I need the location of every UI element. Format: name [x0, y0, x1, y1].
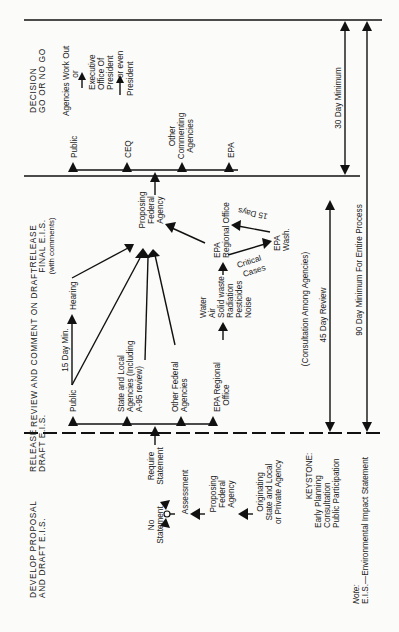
svg-text:AND DRAFT E.I.S.: AND DRAFT E.I.S.	[37, 518, 47, 598]
svg-text:Commenting: Commenting	[177, 112, 186, 159]
svg-text:EPA Regional: EPA Regional	[213, 362, 222, 412]
svg-text:Other: Other	[168, 125, 177, 146]
arrowhead-icon	[68, 416, 78, 426]
forty-five-day-label: 45 Day Review	[319, 287, 328, 342]
require-statement-label: Require Statement	[147, 447, 165, 485]
arrowhead-icon	[325, 422, 335, 432]
epa-regional-office-label: EPA Regional Office	[213, 362, 231, 412]
arrowhead-icon	[218, 262, 228, 271]
svg-text:Federal: Federal	[218, 480, 227, 508]
svg-text:No: No	[147, 519, 156, 530]
svg-text:Consultation: Consultation	[323, 482, 332, 528]
consultation-label: (Consultation Among Agencies)	[301, 252, 310, 367]
eis-process-diagram: DEVELOP PROPOSAL AND DRAFT E.I.S. RELEAS…	[0, 0, 399, 632]
hearing-label: Hearing	[69, 281, 78, 310]
epa-to-agency-line	[172, 228, 205, 243]
or-even-label: or even	[116, 50, 125, 78]
svg-text:Wash.: Wash.	[282, 228, 291, 251]
svg-text:Air: Air	[208, 308, 217, 318]
arrowhead-icon	[362, 422, 372, 432]
svg-text:Require: Require	[147, 451, 156, 480]
arrowhead-icon	[218, 322, 228, 331]
decision-public-label: Public	[70, 136, 79, 158]
fifteen-day-min-label: 15 Day Min.	[61, 328, 70, 372]
decision-ceq-label: CEQ	[124, 140, 133, 158]
phase-develop-heading: DEVELOP PROPOSAL AND DRAFT E.I.S.	[28, 501, 47, 598]
svg-text:Agencies (Including: Agencies (Including	[126, 340, 135, 412]
arrowhead-icon	[208, 416, 218, 426]
critical-cases-label: Critical Cases	[236, 254, 267, 279]
federal-to-agency-line	[155, 255, 175, 345]
svg-text:Early Planning: Early Planning	[314, 475, 323, 528]
svg-text:Office: Office	[222, 384, 231, 406]
arrowhead-icon	[68, 162, 78, 172]
epa-wash-node: EPA Wash.	[273, 228, 291, 251]
arrowhead-icon	[362, 21, 372, 31]
executive-office-label: Executive Office Of President	[88, 54, 115, 90]
svg-text:Statement: Statement	[156, 447, 165, 485]
fifteen-days-label: 15 Days	[237, 206, 268, 221]
president-label: President	[126, 61, 135, 96]
arrowhead-icon	[231, 220, 241, 231]
svg-text:State and Local: State and Local	[265, 463, 274, 520]
svg-text:Statement: Statement	[156, 506, 165, 544]
arrowhead-icon	[190, 508, 200, 520]
arrowhead-icon	[150, 172, 160, 182]
svg-text:EPA: EPA	[273, 235, 282, 251]
svg-text:GO OR NO GO: GO OR NO GO	[37, 48, 47, 113]
svg-text:Agencies: Agencies	[180, 378, 189, 412]
svg-text:Agency: Agency	[156, 195, 165, 223]
keystone-label: KEYSTONE: Early Planning Consultation Pu…	[305, 453, 341, 528]
svg-text:Agencies: Agencies	[186, 119, 195, 153]
arrowhead-icon	[325, 200, 335, 210]
arrowhead-icon	[177, 162, 187, 172]
final-proposing-agency-label: Proposing Federal Agency	[138, 191, 165, 228]
note-label: Note: E.I.S.—Environmental Impact Statem…	[352, 456, 370, 604]
originating-agency-label: Originating State and Local or Private A…	[256, 459, 283, 524]
arrowhead-icon	[165, 222, 176, 233]
arrowhead-icon	[67, 314, 77, 324]
svg-text:Proposing: Proposing	[138, 191, 147, 228]
svg-text:E.I.S.—Environmental Impact St: E.I.S.—Environmental Impact Statement	[361, 456, 370, 604]
svg-text:Note:: Note:	[352, 584, 361, 604]
arrowhead-icon	[122, 416, 132, 426]
phase-decision-heading: DECISION GO OR NO GO	[28, 48, 47, 113]
svg-text:A-95 review): A-95 review)	[135, 366, 144, 412]
or-label: or	[71, 70, 80, 78]
svg-text:Proposing: Proposing	[209, 475, 218, 512]
fifteen-days-arrow	[238, 226, 270, 232]
svg-text:Office Of: Office Of	[97, 57, 106, 90]
svg-text:Other Federal: Other Federal	[171, 361, 180, 412]
svg-text:or Private Agency: or Private Agency	[274, 459, 283, 524]
epa-topics-list: Water Air Solid waste Radiation Pesticid…	[199, 276, 253, 318]
agencies-work-out-label: Agencies Work Out	[62, 45, 71, 116]
review-public-label: Public	[69, 390, 78, 412]
arrowhead-icon	[262, 238, 272, 249]
state-to-agency-line	[145, 258, 148, 360]
arrowhead-icon	[146, 249, 160, 258]
state-local-agencies-label: State and Local Agencies (Including A-95…	[117, 340, 144, 412]
svg-text:Radiation: Radiation	[226, 283, 235, 318]
other-federal-agencies-label: Other Federal Agencies	[171, 361, 189, 412]
svg-text:Public Participation: Public Participation	[332, 458, 341, 528]
epa-regional-office-node: EPA Regional Office	[213, 202, 231, 258]
phase-release-final-heading: RELEASE FINAL E.I.S. (with comments)	[28, 217, 56, 275]
phase-review-heading: REVIEW AND COMMENT ON DRAFT	[29, 268, 39, 427]
svg-text:Originating: Originating	[256, 472, 265, 512]
assessment-label: Assessment	[181, 469, 190, 514]
svg-text:State and Local: State and Local	[117, 355, 126, 412]
svg-text:Agency: Agency	[227, 479, 236, 507]
svg-text:President: President	[106, 55, 115, 90]
arrowhead-icon	[340, 165, 350, 175]
svg-text:Federal: Federal	[147, 196, 156, 224]
arrowhead-icon	[176, 416, 186, 426]
svg-text:Solid waste: Solid waste	[217, 276, 226, 318]
arrowhead-icon	[340, 21, 350, 31]
svg-text:KEYSTONE:: KEYSTONE:	[305, 453, 314, 500]
svg-text:(with comments): (with comments)	[47, 217, 56, 275]
svg-text:Executive: Executive	[88, 54, 97, 90]
svg-text:EPA: EPA	[213, 242, 222, 258]
arrowhead-icon	[124, 244, 134, 253]
arrowhead-icon	[238, 508, 248, 520]
arrowhead-icon	[122, 162, 132, 172]
